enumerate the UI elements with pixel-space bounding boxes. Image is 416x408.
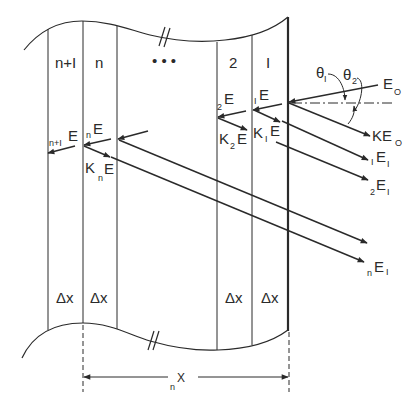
- outgoing-ray-1: [282, 121, 368, 160]
- svg-text:K: K: [219, 130, 229, 147]
- k-arrow-2: [218, 118, 247, 130]
- k-arrow-n: [84, 146, 110, 157]
- incident-ray: [289, 85, 378, 102]
- bottom-break-mark-2: [153, 331, 159, 350]
- svg-text:2: 2: [370, 187, 375, 197]
- svg-text:n: n: [170, 382, 175, 392]
- svg-text:E: E: [270, 122, 280, 139]
- svg-text:E: E: [259, 86, 269, 103]
- svg-text:O: O: [394, 87, 401, 97]
- inward-arrow-1: [253, 104, 282, 110]
- svg-text:θ: θ: [343, 66, 351, 83]
- layer-label-2: 2: [229, 54, 237, 71]
- svg-text:I: I: [387, 187, 390, 197]
- bottom-boundary-curve: [22, 323, 288, 358]
- reflected-ray: [289, 103, 370, 136]
- thickness-label-n: Δx: [90, 289, 108, 306]
- label-K2E: K 2 E: [219, 130, 247, 151]
- outgoing-ray-n: [111, 157, 364, 262]
- theta2-arc-lower: [348, 106, 354, 124]
- thickness-label-1: Δx: [261, 289, 279, 306]
- svg-text:K: K: [253, 124, 263, 141]
- label-KnE: K n E: [85, 159, 114, 183]
- svg-text:I: I: [371, 157, 374, 167]
- svg-text:K: K: [85, 159, 95, 176]
- svg-text:E: E: [93, 120, 103, 137]
- svg-text:E: E: [68, 127, 78, 144]
- theta1-label: θ I: [316, 64, 327, 84]
- svg-text:I: I: [324, 74, 327, 84]
- layered-slab-diagram: n+I n • • • 2 I Δx Δx Δx Δx E O KE O θ I…: [0, 0, 416, 408]
- inward-arrow-2: [218, 111, 246, 117]
- thickness-label-2: Δx: [225, 289, 243, 306]
- label-1E: I E: [254, 86, 269, 106]
- theta2-label: θ 2: [343, 66, 357, 86]
- layer-label-1: I: [266, 54, 270, 71]
- reflected-label: KE O: [372, 127, 402, 148]
- layer-label-n+1: n+I: [55, 54, 76, 71]
- svg-text:n: n: [86, 130, 91, 140]
- svg-text:n: n: [367, 268, 372, 278]
- top-break-mark-1: [159, 27, 165, 46]
- svg-text:2: 2: [230, 141, 235, 151]
- svg-text:I: I: [254, 96, 257, 106]
- svg-text:E: E: [104, 160, 114, 177]
- svg-text:n+I: n+I: [49, 138, 62, 148]
- inward-arrow-n-enter: [118, 131, 148, 139]
- svg-text:2: 2: [217, 102, 222, 112]
- label-n+1E: n+I E: [49, 127, 78, 148]
- svg-text:E: E: [374, 258, 384, 275]
- svg-text:I: I: [265, 134, 268, 144]
- svg-text:O: O: [395, 138, 402, 148]
- outgoing-ray-n-upper: [119, 140, 367, 243]
- svg-text:I: I: [387, 159, 390, 169]
- svg-text:E: E: [237, 130, 247, 147]
- top-boundary-curve: [24, 17, 288, 50]
- svg-text:E: E: [376, 148, 386, 165]
- label-2E1: 2 E I: [370, 176, 390, 197]
- k-arrow-1: [254, 110, 280, 122]
- svg-text:E: E: [224, 90, 234, 107]
- label-nE1: n E I: [367, 258, 389, 278]
- layer-label-ellipsis: • • •: [152, 52, 176, 69]
- layer-label-n: n: [95, 54, 103, 71]
- outgoing-ray-2: [276, 142, 368, 180]
- incident-label: E O: [383, 75, 401, 97]
- svg-text:n: n: [98, 173, 103, 183]
- svg-text:E: E: [383, 75, 393, 92]
- label-nE: n E: [86, 120, 103, 140]
- svg-text:X: X: [177, 371, 185, 385]
- label-2E: 2 E: [217, 90, 234, 112]
- dimension-label-nX: n X: [170, 371, 185, 392]
- label-1E1: I E I: [371, 148, 390, 169]
- label-K1E: K I E: [253, 122, 280, 144]
- thickness-label-n+1: Δx: [56, 289, 74, 306]
- svg-text:E: E: [376, 176, 386, 193]
- svg-text:2: 2: [352, 76, 357, 86]
- svg-text:KE: KE: [372, 127, 392, 144]
- svg-text:I: I: [386, 267, 389, 277]
